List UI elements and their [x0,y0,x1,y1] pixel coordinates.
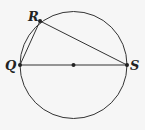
label-s: S [130,58,139,73]
chord-qr [20,21,40,65]
label-r: R [27,9,39,24]
point-q [18,63,22,67]
center-point [72,63,76,67]
circle-diagram: Q R S [0,0,145,130]
chord-rs [40,21,127,65]
label-q: Q [5,58,17,73]
diagram-canvas: Q R S [0,0,145,130]
point-s [125,63,129,67]
